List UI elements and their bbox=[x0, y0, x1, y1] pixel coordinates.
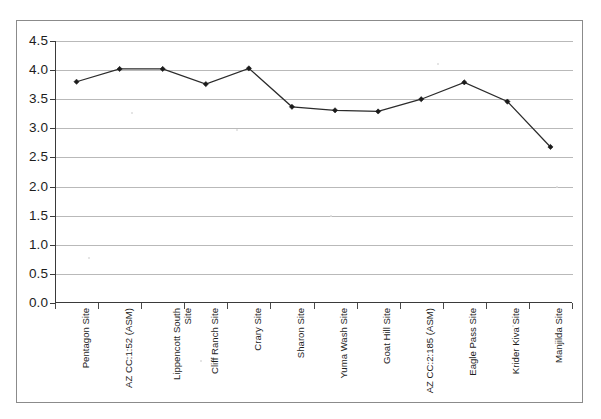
x-axis-tick bbox=[357, 303, 358, 309]
gridline bbox=[56, 99, 573, 100]
x-axis-tick-label: Krider Kiva Site bbox=[511, 308, 522, 398]
y-axis-tick bbox=[50, 41, 55, 42]
x-axis-tick bbox=[55, 303, 56, 309]
x-axis-tick-label: Lippencott South Site bbox=[172, 308, 193, 398]
line-chart: 4.54.03.53.02.52.01.51.00.50.0 Pentagon … bbox=[0, 0, 601, 419]
x-axis-tick-label: Goat Hill Site bbox=[382, 308, 393, 398]
y-axis-tick-label: 1.0 bbox=[8, 238, 48, 252]
plot-area bbox=[55, 41, 572, 303]
y-axis-tick-label: 1.5 bbox=[8, 209, 48, 223]
gridline bbox=[56, 274, 573, 275]
y-axis-tick-label: 3.5 bbox=[8, 92, 48, 106]
x-axis-tick-label: Yuma Wash Site bbox=[339, 308, 350, 398]
x-axis-tick bbox=[314, 303, 315, 309]
y-axis-tick bbox=[50, 157, 55, 158]
y-axis-tick-label: 0.0 bbox=[8, 296, 48, 310]
x-axis-tick bbox=[227, 303, 228, 309]
y-axis-tick-label: 3.0 bbox=[8, 121, 48, 135]
x-axis-tick-label: Crary Site bbox=[253, 308, 264, 398]
x-axis-tick bbox=[141, 303, 142, 309]
x-axis-tick bbox=[400, 303, 401, 309]
x-axis-tick bbox=[443, 303, 444, 309]
x-axis-tick bbox=[270, 303, 271, 309]
x-axis-tick-label: Eagle Pass Site bbox=[468, 308, 479, 398]
x-axis-tick-label: Manjilda Site bbox=[554, 308, 565, 398]
y-axis-tick bbox=[50, 274, 55, 275]
x-axis-tick bbox=[98, 303, 99, 309]
x-axis-tick-label: Pentagon Site bbox=[81, 308, 92, 398]
x-axis-tick-label: Sharon Site bbox=[296, 308, 307, 398]
x-axis-tick bbox=[529, 303, 530, 309]
y-axis-tick-label: 2.5 bbox=[8, 150, 48, 164]
x-axis-tick-label: Cliff Ranch Site bbox=[210, 308, 221, 398]
y-axis-tick-label: 4.0 bbox=[8, 63, 48, 77]
y-axis-tick bbox=[50, 187, 55, 188]
gridline bbox=[56, 245, 573, 246]
x-axis-tick bbox=[572, 303, 573, 309]
y-axis-tick bbox=[50, 216, 55, 217]
gridline bbox=[56, 70, 573, 71]
x-axis-tick-label: AZ CC:2:185 (ASM) bbox=[425, 308, 436, 398]
gridline bbox=[56, 41, 573, 42]
y-axis-tick-label: 2.0 bbox=[8, 180, 48, 194]
y-axis-tick-label: 0.5 bbox=[8, 267, 48, 281]
x-axis-tick-label: AZ CC:1:52 (ASM) bbox=[124, 308, 135, 398]
gridline bbox=[56, 216, 573, 217]
gridline bbox=[56, 187, 573, 188]
y-axis-tick bbox=[50, 128, 55, 129]
y-axis-tick bbox=[50, 245, 55, 246]
y-axis-tick bbox=[50, 99, 55, 100]
gridline bbox=[56, 157, 573, 158]
y-axis-tick bbox=[50, 70, 55, 71]
y-axis-tick-label: 4.5 bbox=[8, 34, 48, 48]
gridline bbox=[56, 128, 573, 129]
x-axis-tick bbox=[486, 303, 487, 309]
